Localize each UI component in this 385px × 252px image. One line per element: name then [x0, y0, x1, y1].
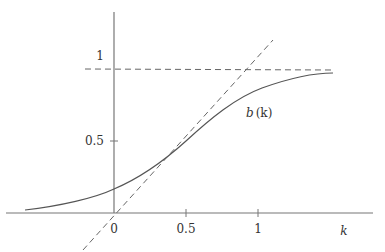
curve-b-of-k: [25, 73, 333, 210]
curve-label: b(k): [246, 106, 272, 120]
x-tick-label-1: 1: [254, 222, 262, 236]
chart: 0 0.5 1 0.5 1 k b(k): [0, 0, 385, 252]
curve-label-b: b: [246, 106, 254, 120]
x-axis-label: k: [340, 224, 347, 238]
x-tick-label-0: 0: [110, 222, 118, 236]
curve-label-arg: (k): [256, 106, 273, 120]
asymptote-line: [85, 69, 333, 70]
y-tick-label-1: 1: [96, 49, 104, 63]
tangent-line: [83, 40, 273, 250]
y-tick-label-0.5: 0.5: [85, 134, 104, 148]
x-tick-label-0.5: 0.5: [176, 222, 195, 236]
